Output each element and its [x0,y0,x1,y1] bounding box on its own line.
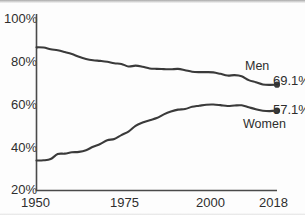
chart-figure: 100% 80% 60% 40% 20% 1950 1975 2000 2018… [0,0,305,215]
series-label-women: Women [243,117,286,131]
axis-lines [37,14,278,191]
series-label-men: Men [245,59,269,73]
y-tick-label-60: 60% [11,97,37,112]
x-tick-label-2000: 2000 [196,195,225,210]
line-chart: 100% 80% 60% 40% 20% 1950 1975 2000 2018… [0,0,305,215]
x-tick-label-1950: 1950 [21,195,50,210]
x-tick-label-1975: 1975 [110,195,139,210]
x-tick-label-2018: 2018 [259,195,288,210]
y-tick-label-40: 40% [11,140,37,155]
series-line-men [37,47,278,85]
series-value-women: 57.1% [273,102,305,117]
series-value-men: 69.1% [273,73,305,88]
y-tick-label-100: 100% [4,11,38,26]
series-line-women [37,104,278,160]
y-tick-label-80: 80% [11,54,37,69]
